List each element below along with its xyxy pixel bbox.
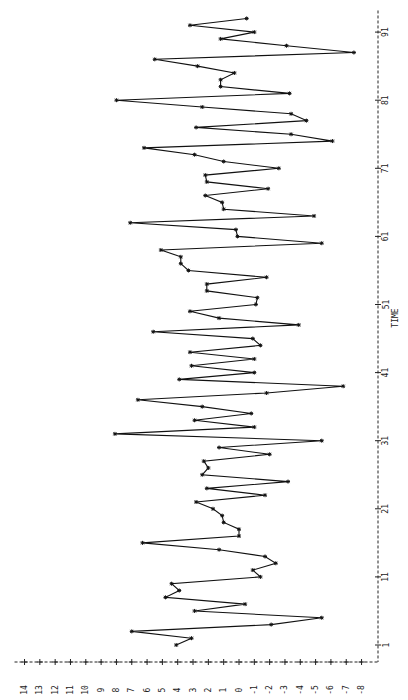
value-tick-label: 3 <box>189 687 198 692</box>
data-point-marker <box>128 221 132 225</box>
data-point-marker <box>206 466 210 470</box>
data-point-marker <box>205 289 209 293</box>
data-point-marker <box>222 520 226 524</box>
value-tick-label: 11 <box>66 685 75 695</box>
data-point-marker <box>217 548 221 552</box>
data-point-marker <box>245 16 249 20</box>
data-point-marker <box>179 262 183 266</box>
value-tick-label: 4 <box>173 687 182 692</box>
data-point-marker <box>297 323 301 327</box>
value-tick-label: 1 <box>219 687 228 692</box>
time-tick-label: 1 <box>382 642 391 647</box>
data-point-marker <box>186 268 190 272</box>
time-tick-label: 71 <box>382 163 391 173</box>
time-series-chart: 111213141516171819114131211109876543210-… <box>0 0 408 700</box>
data-point-marker <box>286 480 290 484</box>
data-point-marker <box>352 51 356 55</box>
data-point-marker <box>254 303 258 307</box>
value-tick-label: 7 <box>127 687 136 692</box>
data-point-marker <box>194 500 198 504</box>
data-point-marker <box>263 554 267 558</box>
time-tick-label: 81 <box>382 95 391 105</box>
data-point-marker <box>203 194 207 198</box>
data-point-marker <box>289 112 293 116</box>
value-tick-label: 9 <box>97 687 106 692</box>
data-point-marker <box>217 316 221 320</box>
data-point-marker <box>188 350 192 354</box>
axes <box>15 10 378 662</box>
data-point-marker <box>163 595 167 599</box>
data-point-marker <box>130 629 134 633</box>
data-point-marker <box>252 425 256 429</box>
data-point-marker <box>269 623 273 627</box>
time-tick-label: 21 <box>382 504 391 514</box>
data-point-marker <box>288 91 292 95</box>
data-point-marker <box>136 398 140 402</box>
data-point-marker <box>140 541 144 545</box>
time-tick-label: 91 <box>382 27 391 37</box>
value-tick-label: 12 <box>51 685 60 695</box>
data-point-marker <box>252 371 256 375</box>
data-point-marker <box>114 98 118 102</box>
data-point-marker <box>193 418 197 422</box>
data-point-marker <box>330 139 334 143</box>
data-point-marker <box>179 255 183 259</box>
data-point-marker <box>190 364 194 368</box>
data-point-marker <box>304 119 308 123</box>
value-tick-label: -7 <box>342 685 351 695</box>
data-point-marker <box>219 85 223 89</box>
data-point-marker <box>153 57 157 61</box>
data-point-marker <box>219 37 223 41</box>
data-point-marker <box>258 343 262 347</box>
data-point-marker <box>243 602 247 606</box>
value-tick-label: 13 <box>35 685 44 695</box>
data-point-marker <box>268 452 272 456</box>
data-point-marker <box>265 275 269 279</box>
data-point-marker <box>205 282 209 286</box>
data-point-marker <box>232 71 236 75</box>
data-point-marker <box>222 207 226 211</box>
data-point-marker <box>237 534 241 538</box>
data-point-marker <box>255 296 259 300</box>
data-point-marker <box>341 384 345 388</box>
data-point-marker <box>202 459 206 463</box>
data-point-marker <box>142 146 146 150</box>
data-point-marker <box>188 309 192 313</box>
value-tick-label: -6 <box>326 685 335 695</box>
data-point-marker <box>235 234 239 238</box>
data-point-marker <box>251 568 255 572</box>
data-point-marker <box>193 609 197 613</box>
value-tick-label: 10 <box>81 685 90 695</box>
x-axis-title: TIME <box>391 308 400 327</box>
data-point-marker <box>188 23 192 27</box>
value-tick-label: -5 <box>311 685 320 695</box>
data-point-marker <box>252 357 256 361</box>
data-point-marker <box>252 30 256 34</box>
data-point-marker <box>289 132 293 136</box>
value-tick-label: 2 <box>204 687 213 692</box>
data-point-marker <box>190 636 194 640</box>
data-point-marker <box>234 228 238 232</box>
value-tick-label: -2 <box>265 685 274 695</box>
value-tick-label: -3 <box>280 685 289 695</box>
data-point-marker <box>312 214 316 218</box>
data-point-marker <box>274 561 278 565</box>
data-point-marker <box>284 44 288 48</box>
data-point-marker <box>263 493 267 497</box>
value-tick-label: -4 <box>296 685 305 695</box>
data-point-marker <box>177 377 181 381</box>
data-point-marker <box>196 64 200 68</box>
data-point-marker <box>194 125 198 129</box>
data-point-marker <box>219 78 223 82</box>
data-point-marker <box>151 330 155 334</box>
data-point-marker <box>174 643 178 647</box>
value-tick-label: 8 <box>112 687 121 692</box>
data-point-marker <box>320 439 324 443</box>
time-tick-label: 41 <box>382 368 391 378</box>
data-point-marker <box>205 180 209 184</box>
data-line <box>115 19 354 646</box>
data-point-marker <box>177 589 181 593</box>
data-point-marker <box>211 507 215 511</box>
value-tick-label: -8 <box>357 685 366 695</box>
time-tick-label: 31 <box>382 436 391 446</box>
